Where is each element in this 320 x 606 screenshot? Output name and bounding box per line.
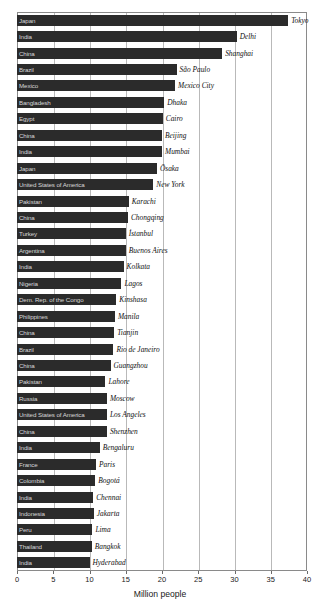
bar: India (17, 146, 162, 157)
bar-country-label: Peru (19, 524, 32, 535)
bar-country-label: Egypt (19, 113, 34, 124)
x-tick-mark (271, 571, 272, 574)
bar: Egypt (17, 113, 163, 124)
bar-row: PakistanKarachi (17, 196, 307, 207)
bar-row: PakistanLahore (17, 376, 307, 387)
bar-row: Turkeyİstanbul (17, 228, 307, 239)
bar-country-label: United States of America (19, 179, 85, 190)
bar-city-label: Guangzhou (114, 360, 148, 371)
bar-city-label: Shenzhen (110, 426, 138, 437)
bar: Brazil (17, 344, 113, 355)
bar: United States of America (17, 409, 107, 420)
bar-city-label: Hyderabad (93, 557, 126, 568)
bar-city-label: São Paulo (180, 64, 211, 75)
bar-row: IndiaChennai (17, 492, 307, 503)
bar-country-label: Brazil (19, 344, 34, 355)
bar-row: ArgentinaBuenos Aires (17, 245, 307, 256)
bar-country-label: China (19, 327, 35, 338)
x-tick-label: 25 (194, 575, 202, 584)
bar: Philippines (17, 311, 115, 322)
bar-row: United States of AmericaLos Angeles (17, 409, 307, 420)
bar-row: IndonesiaJakarta (17, 508, 307, 519)
bar-country-label: France (19, 459, 38, 470)
bar-country-label: Turkey (19, 228, 37, 239)
x-tick-mark (126, 571, 127, 574)
bar-city-label: Manila (118, 311, 139, 322)
x-tick-label: 5 (51, 575, 55, 584)
bar-row: IndiaKolkata (17, 261, 307, 272)
bar: China (17, 327, 114, 338)
bar-city-label: Lima (95, 524, 110, 535)
bar-country-label: Argentina (19, 245, 45, 256)
bar: Colombia (17, 475, 95, 486)
bar: Pakistan (17, 196, 129, 207)
bar: India (17, 492, 93, 503)
bar-city-label: Karachi (132, 196, 156, 207)
bars-layer: JapanTokyoIndiaDelhiChinaShanghaiBrazilS… (17, 12, 307, 571)
bar: Japan (17, 15, 288, 26)
x-tick-label: 10 (85, 575, 93, 584)
bar-row: PhilippinesManila (17, 311, 307, 322)
bar: China (17, 48, 222, 59)
x-tick-mark (162, 571, 163, 574)
bar: Mexico (17, 80, 175, 91)
bar-city-label: Ōsaka (160, 163, 179, 174)
x-tick-label: 40 (303, 575, 311, 584)
bar-city-label: Tokyo (291, 15, 308, 26)
bar-country-label: India (19, 557, 32, 568)
x-tick-label: 20 (158, 575, 166, 584)
bar-country-label: India (19, 492, 32, 503)
bar-row: IndiaHyderabad (17, 557, 307, 568)
bar-country-label: India (19, 442, 32, 453)
bar: Brazil (17, 64, 177, 75)
bar-city-label: Paris (99, 459, 115, 470)
x-tick-mark (198, 571, 199, 574)
bar-country-label: Philippines (19, 311, 48, 322)
bar-country-label: Brazil (19, 64, 34, 75)
bar-row: NigeriaLagos (17, 278, 307, 289)
bar: China (17, 360, 111, 371)
x-tick-label: 0 (15, 575, 19, 584)
bar: India (17, 261, 124, 272)
bar-country-label: India (19, 146, 32, 157)
bar-city-label: İstanbul (129, 228, 153, 239)
bar-country-label: China (19, 426, 35, 437)
bar-row: ChinaTianjin (17, 327, 307, 338)
bar: India (17, 31, 237, 42)
bar: Bangladesh (17, 97, 164, 108)
bar-city-label: Bogotá (98, 475, 119, 486)
bar-row: MexicoMexico City (17, 80, 307, 91)
bar-city-label: Kinshasa (119, 294, 147, 305)
bar-city-label: Cairo (166, 113, 183, 124)
x-tick-mark (90, 571, 91, 574)
bar-city-label: Delhi (240, 31, 256, 42)
bar: Peru (17, 524, 92, 535)
bar: China (17, 212, 128, 223)
bar: Pakistan (17, 376, 105, 387)
bar: Thailand (17, 541, 92, 552)
bar-country-label: Pakistan (19, 196, 42, 207)
bar-row: BrazilRio de Janeiro (17, 344, 307, 355)
bar: Indonesia (17, 508, 94, 519)
x-tick-mark (235, 571, 236, 574)
bar-row: ThailandBangkok (17, 541, 307, 552)
bar-row: ChinaShanghai (17, 48, 307, 59)
bar-country-label: China (19, 130, 35, 141)
bar-city-label: Moscow (110, 393, 135, 404)
bar-country-label: China (19, 212, 35, 223)
x-tick-mark (53, 571, 54, 574)
bar-row: RussiaMoscow (17, 393, 307, 404)
bar-city-label: Chennai (96, 492, 121, 503)
bar-row: IndiaDelhi (17, 31, 307, 42)
x-axis: Million people 0510152025303540 (0, 571, 320, 606)
x-tick-label: 35 (267, 575, 275, 584)
bar-country-label: India (19, 261, 32, 272)
bar-city-label: New York (156, 179, 184, 190)
bar-city-label: Bangkok (95, 541, 121, 552)
bar-country-label: India (19, 31, 32, 42)
bar-country-label: China (19, 360, 35, 371)
bar-row: IndiaBengaluru (17, 442, 307, 453)
bar-country-label: Dem. Rep. of the Congo (19, 294, 84, 305)
bar-city-label: Dhaka (167, 97, 187, 108)
bar-row: Dem. Rep. of the CongoKinshasa (17, 294, 307, 305)
